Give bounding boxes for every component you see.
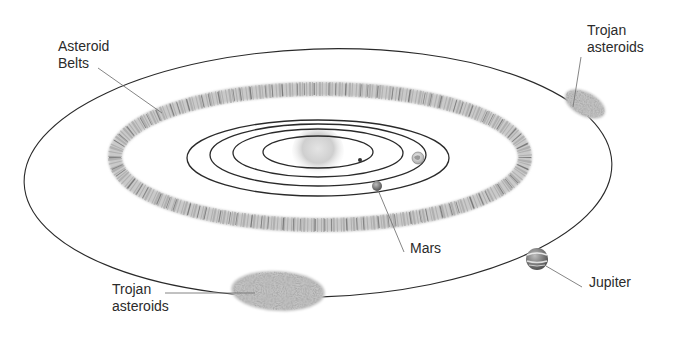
earth bbox=[412, 152, 424, 164]
mercury bbox=[358, 158, 362, 162]
label-asteroid-belts: Asteroid Belts bbox=[58, 38, 109, 72]
label-trojan-asteroids-upper: Trojan asteroids bbox=[587, 22, 644, 56]
leader-jupiter bbox=[546, 266, 582, 287]
label-jupiter: Jupiter bbox=[589, 274, 631, 291]
trojan-asteroids-lower bbox=[230, 269, 326, 314]
mars bbox=[372, 181, 382, 191]
jupiter bbox=[526, 248, 548, 270]
trojan-asteroids-upper bbox=[560, 83, 610, 125]
label-mars: Mars bbox=[410, 240, 441, 257]
label-trojan-asteroids-lower: Trojan asteroids bbox=[112, 281, 169, 315]
